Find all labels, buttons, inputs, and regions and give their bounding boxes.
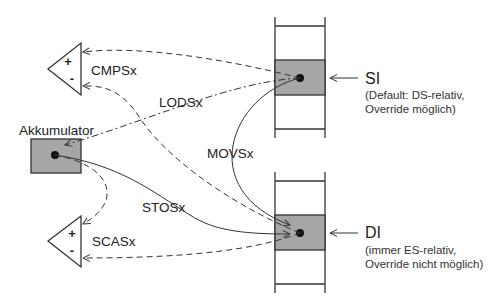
di-note-line1: (immer ES-relativ, [365, 243, 456, 257]
di-label: DI [365, 225, 381, 241]
comparator-bottom: + - [48, 216, 81, 267]
svg-text:-: - [70, 71, 74, 86]
comparator-top: + - [48, 43, 81, 95]
svg-text:+: + [64, 54, 72, 69]
movs-label: MOVSx [207, 147, 254, 161]
accumulator-box [31, 139, 81, 173]
stos-label: STOSx [142, 201, 185, 215]
cmps-label: CMPSx [91, 64, 137, 78]
si-note-line1: (Default: DS-relativ, [365, 88, 464, 102]
scas-label: SCASx [92, 235, 136, 249]
svg-text:+: + [68, 226, 76, 241]
si-label: SI [365, 71, 380, 87]
stos-edge [55, 155, 290, 234]
si-note-line2: Override möglich) [365, 102, 456, 116]
di-note-line2: Override nicht möglich) [365, 257, 483, 271]
accumulator-label: Akkumulator [19, 124, 94, 138]
svg-text:-: - [70, 243, 74, 258]
lods-edge [65, 78, 300, 145]
lods-label: LODSx [159, 96, 203, 110]
